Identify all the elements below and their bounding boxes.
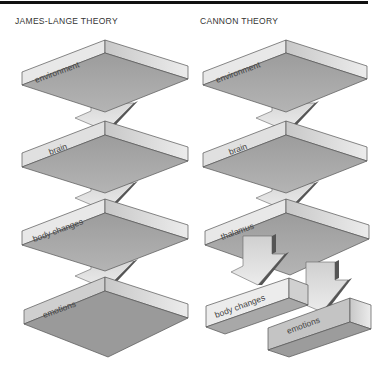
cannon-column: environment brain thalamus <box>203 40 371 357</box>
slab-emotions: emotions <box>24 277 188 357</box>
slab-thalamus: thalamus <box>205 199 369 275</box>
slab-brain: brain <box>22 121 188 193</box>
slab-environment: environment <box>203 40 367 112</box>
slab-body-changes: body changes <box>22 199 188 271</box>
slab-brain: brain <box>203 121 367 193</box>
james-lange-column: environment brain body changes emotions <box>22 40 188 357</box>
theory-diagram: environment brain body changes emotions <box>0 0 388 372</box>
slab-environment: environment <box>22 40 188 112</box>
